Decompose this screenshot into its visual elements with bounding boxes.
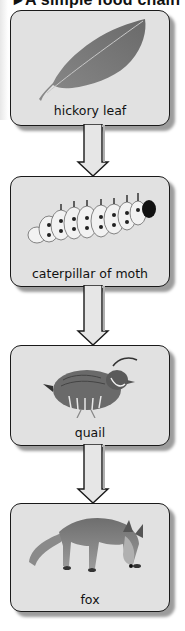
leaf-image [31, 17, 151, 103]
arrow-down-icon [76, 124, 110, 178]
chain-node-fox: fox [10, 503, 170, 612]
title-text: A simple food chain [25, 0, 180, 8]
chain-node-caterpillar-of-moth: caterpillar of moth [10, 176, 170, 287]
edge-smudge [0, 0, 8, 120]
chain-node-label: quail [11, 425, 169, 440]
chain-node-hickory-leaf: hickory leaf [10, 10, 170, 126]
quail-image [39, 352, 149, 418]
chain-node-label: caterpillar of moth [11, 266, 169, 281]
chain-node-label: hickory leaf [11, 103, 169, 118]
title-marker: ▸ [14, 0, 19, 8]
arrow-down-icon [76, 285, 110, 347]
chain-node-quail: quail [10, 345, 170, 446]
diagram-title: ▸A simple food chain [0, 0, 185, 8]
caterpillar-image [21, 189, 161, 249]
arrow-down-icon [76, 444, 110, 505]
chain-node-label: fox [11, 592, 169, 607]
fox-image [25, 510, 155, 584]
